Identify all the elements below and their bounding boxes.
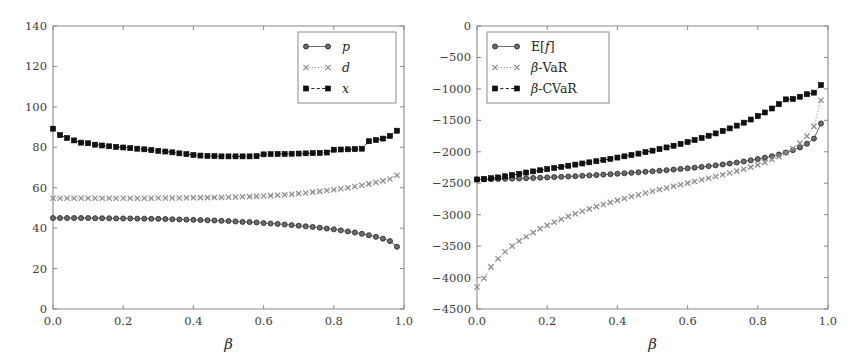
data-point-marker (727, 126, 732, 131)
data-point-marker (149, 216, 154, 221)
data-point-marker (254, 220, 259, 225)
data-point-marker (219, 218, 224, 223)
data-point-marker (86, 216, 91, 221)
x-tick-label: 0.4 (184, 314, 202, 328)
data-point-marker (219, 154, 224, 159)
data-point-marker (524, 234, 529, 239)
data-point-marker (762, 155, 767, 160)
data-point-marker (198, 153, 203, 158)
data-point-marker (727, 170, 732, 175)
data-point-marker (58, 133, 63, 138)
data-point-marker (303, 190, 308, 195)
data-point-marker (380, 236, 385, 241)
data-point-marker (643, 169, 648, 174)
data-point-marker (121, 145, 126, 150)
data-point-marker (545, 175, 550, 180)
legend-label: E[f] (531, 39, 555, 54)
data-point-marker (692, 165, 697, 170)
data-point-marker (128, 216, 133, 221)
data-point-marker (552, 166, 557, 171)
data-point-marker (727, 161, 732, 166)
data-point-marker (517, 238, 522, 243)
data-point-marker (100, 196, 105, 201)
data-point-marker (608, 172, 613, 177)
y-tick-label: −2000 (432, 145, 471, 159)
data-point-marker (720, 162, 725, 167)
x-tick-label: 0.2 (538, 314, 556, 328)
data-point-marker (65, 216, 70, 221)
data-point-marker (587, 160, 592, 165)
data-point-marker (310, 151, 315, 156)
data-point-marker (338, 147, 343, 152)
data-point-marker (107, 216, 112, 221)
data-point-marker (205, 218, 210, 223)
legend-label: d (342, 60, 350, 75)
data-point-marker (317, 150, 322, 155)
data-point-marker (706, 133, 711, 138)
data-point-marker (93, 142, 98, 147)
data-point-marker (331, 147, 336, 152)
data-point-marker (149, 148, 154, 153)
data-point-marker (275, 221, 280, 226)
data-point-marker (65, 135, 70, 140)
legend[interactable]: pdx (298, 32, 396, 103)
data-point-marker (212, 154, 217, 159)
data-point-marker (177, 217, 182, 222)
data-point-marker (488, 264, 493, 269)
data-point-marker (156, 216, 161, 221)
data-point-marker (247, 154, 252, 159)
data-point-marker (72, 216, 77, 221)
y-tick-label: 20 (32, 262, 47, 276)
series-β-VaR (474, 98, 823, 290)
data-point-marker (559, 217, 564, 222)
data-point-marker (636, 151, 641, 156)
data-point-marker (601, 202, 606, 207)
data-point-marker (741, 120, 746, 125)
data-point-marker (352, 230, 357, 235)
data-point-marker (587, 206, 592, 211)
data-point-marker (128, 146, 133, 151)
y-tick-label: −3000 (432, 208, 471, 222)
data-point-marker (580, 161, 585, 166)
data-point-marker (121, 216, 126, 221)
data-point-marker (713, 163, 718, 168)
data-point-marker (184, 217, 189, 222)
data-point-marker (671, 143, 676, 148)
data-point-marker (373, 138, 378, 143)
data-point-marker (352, 147, 357, 152)
data-point-marker (629, 152, 634, 157)
series-line (477, 100, 821, 287)
data-point-marker (811, 124, 816, 129)
data-point-marker (524, 176, 529, 181)
data-point-marker (107, 144, 112, 149)
data-point-marker (608, 200, 613, 205)
data-point-marker (380, 136, 385, 141)
data-point-marker (177, 151, 182, 156)
data-point-marker (776, 102, 781, 107)
plot-svg-left: 0204060801001201400.00.20.40.60.81.0βpdx (0, 0, 425, 360)
x-tick-label: 0.8 (749, 314, 767, 328)
data-point-marker (170, 150, 175, 155)
y-tick-label: 140 (25, 19, 47, 33)
data-point-marker (304, 44, 309, 49)
data-point-marker (226, 154, 231, 159)
data-point-marker (622, 171, 627, 176)
data-point-marker (664, 145, 669, 150)
legend[interactable]: E[f]β-VaRβ-CVaR (487, 32, 609, 103)
data-point-marker (804, 92, 809, 97)
data-point-marker (601, 158, 606, 163)
data-point-marker (475, 177, 480, 182)
data-point-marker (755, 157, 760, 162)
legend-label: β-VaR (530, 60, 568, 75)
data-point-marker (566, 214, 571, 219)
data-point-marker (510, 244, 515, 249)
data-point-marker (261, 152, 266, 157)
data-point-marker (601, 172, 606, 177)
data-point-marker (198, 195, 203, 200)
data-point-marker (296, 151, 301, 156)
data-point-marker (359, 231, 364, 236)
y-tick-label: −4500 (432, 302, 471, 316)
data-point-marker (496, 175, 501, 180)
data-point-marker (51, 216, 56, 221)
data-point-marker (163, 217, 168, 222)
